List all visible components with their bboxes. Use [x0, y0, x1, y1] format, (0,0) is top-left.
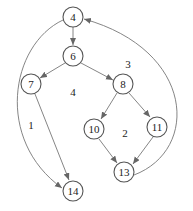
edge-10-13 — [99, 139, 117, 163]
node-6: 6 — [63, 46, 83, 66]
node-label: 14 — [68, 185, 80, 197]
node-10: 10 — [84, 119, 104, 139]
edge-8-11 — [129, 93, 150, 117]
node-label: 10 — [89, 123, 101, 135]
region-label-3: 3 — [125, 58, 131, 70]
node-4: 4 — [63, 7, 83, 27]
node-label: 8 — [120, 78, 126, 90]
nodes: 4 6 7 8 10 11 13 14 — [21, 7, 167, 201]
control-flow-graph: 4 6 7 8 10 11 13 14 1 2 3 4 — [0, 0, 193, 211]
edge-6-7 — [40, 63, 65, 78]
node-label: 13 — [119, 166, 131, 178]
edge-4-14-curve — [17, 20, 63, 188]
region-label-4: 4 — [70, 86, 76, 98]
node-7: 7 — [21, 74, 41, 94]
node-label: 6 — [70, 50, 76, 62]
region-label-2: 2 — [122, 127, 128, 139]
edge-6-8 — [81, 63, 113, 80]
region-labels: 1 2 3 4 — [28, 58, 131, 139]
node-label: 7 — [28, 78, 34, 90]
edge-11-13 — [133, 137, 153, 164]
edge-13-4-curve — [84, 19, 177, 175]
region-label-1: 1 — [28, 119, 34, 131]
node-13: 13 — [114, 162, 134, 182]
node-11: 11 — [147, 117, 167, 137]
node-14: 14 — [63, 181, 83, 201]
edges — [17, 19, 177, 188]
edge-8-10 — [101, 93, 117, 119]
node-label: 11 — [152, 121, 163, 133]
node-8: 8 — [113, 74, 133, 94]
node-label: 4 — [70, 11, 76, 23]
